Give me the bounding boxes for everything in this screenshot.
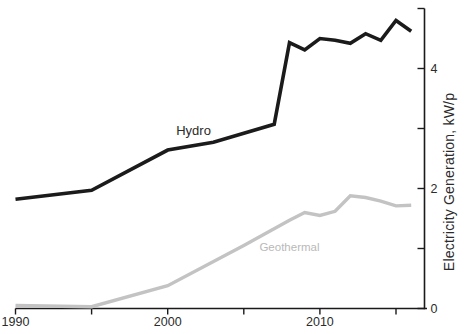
x-tick-label: 2010 <box>306 315 334 329</box>
y-axis-title: Electricity Generation, kW/p <box>441 93 457 271</box>
series-inline-labels: HydroGeothermal <box>176 123 319 253</box>
hydro-label: Hydro <box>176 123 211 138</box>
y-tick-label: 2 <box>431 182 438 196</box>
y-tick-label: 4 <box>431 62 438 76</box>
geothermal-line <box>16 196 412 307</box>
axes <box>16 9 428 315</box>
x-tick-label: 1990 <box>2 315 30 329</box>
axis-tick-labels: 199020002010024 <box>2 62 438 329</box>
electricity-generation-line-chart: HydroGeothermal 199020002010024 Electric… <box>0 0 464 334</box>
x-tick-label: 2000 <box>154 315 182 329</box>
series-lines <box>16 21 412 307</box>
y-tick-label: 0 <box>431 302 438 316</box>
chart-figure: HydroGeothermal 199020002010024 Electric… <box>0 0 464 334</box>
geothermal-label: Geothermal <box>259 241 319 253</box>
hydro-line <box>16 21 412 200</box>
